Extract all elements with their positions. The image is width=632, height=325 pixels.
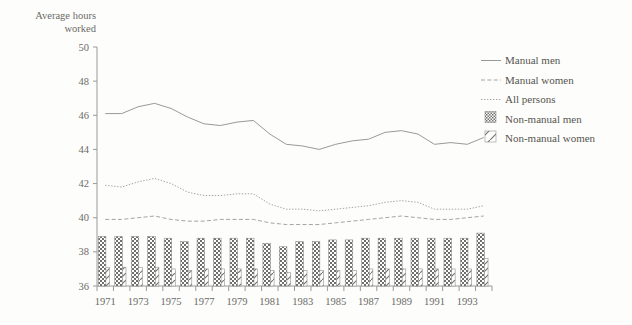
y-axis-label-line2: worked — [65, 23, 97, 34]
legend-swatch-crosshatch — [485, 112, 496, 123]
x-axis-tick-label: 1991 — [424, 296, 445, 307]
line-manual-women — [105, 216, 484, 225]
x-axis-tick-label: 1973 — [128, 296, 149, 307]
x-axis-tick-label: 1977 — [193, 296, 214, 307]
bar-non-manual-men — [460, 238, 468, 286]
bar-non-manual-men — [263, 243, 271, 286]
y-axis: 3638404244464850 — [79, 42, 98, 292]
bar-non-manual-men — [345, 240, 353, 286]
legend-item-label: Manual men — [505, 54, 561, 66]
line-series-group — [105, 103, 484, 224]
bar-non-manual-men — [378, 238, 386, 286]
chart-figure: Average hours worked 3638404244464850 19… — [0, 0, 632, 325]
line-manual-men — [105, 103, 484, 149]
legend-item-label: All persons — [505, 93, 555, 105]
bar-non-manual-men — [395, 238, 403, 286]
y-axis-tick-label: 50 — [79, 42, 90, 53]
x-axis-tick-label: 1985 — [325, 296, 346, 307]
x-axis-tick-label: 1979 — [226, 296, 247, 307]
y-axis-tick-label: 42 — [79, 178, 90, 189]
legend-swatch-diagonal — [485, 131, 496, 142]
bar-non-manual-men — [197, 238, 205, 286]
bar-series-group — [98, 233, 488, 286]
y-axis-tick-label: 44 — [79, 144, 90, 155]
bar-non-manual-men — [181, 242, 189, 286]
y-axis-label-line1: Average hours — [35, 10, 96, 21]
bar-non-manual-men — [312, 242, 320, 286]
x-axis-tick-label: 1983 — [292, 296, 313, 307]
bar-non-manual-men — [98, 236, 106, 286]
bar-non-manual-men — [131, 236, 139, 286]
bar-non-manual-men — [230, 238, 238, 286]
bar-non-manual-men — [115, 236, 123, 286]
bar-non-manual-men — [444, 238, 452, 286]
legend-item-label: Non-manual men — [505, 113, 582, 125]
x-axis-tick-label: 1981 — [259, 296, 280, 307]
legend-item-label: Manual women — [505, 74, 574, 86]
legend-item-label: Non-manual women — [505, 132, 596, 144]
bar-non-manual-men — [411, 238, 419, 286]
y-axis-tick-label: 36 — [79, 281, 90, 292]
x-axis-tick-label: 1975 — [161, 296, 182, 307]
x-axis-tick-label: 1989 — [391, 296, 412, 307]
bar-non-manual-men — [246, 238, 254, 286]
x-axis-tick-label: 1987 — [358, 296, 379, 307]
bar-non-manual-men — [477, 233, 485, 286]
bar-non-manual-men — [427, 238, 435, 286]
bar-non-manual-men — [329, 240, 337, 286]
y-axis-tick-label: 46 — [79, 110, 90, 121]
x-axis-tick-label: 1993 — [457, 296, 478, 307]
chart-legend: Manual menManual womenAll personsNon-man… — [481, 54, 596, 144]
bar-non-manual-men — [148, 236, 156, 286]
bar-non-manual-men — [214, 238, 222, 286]
line-all-persons — [105, 178, 484, 210]
hours-worked-chart: Average hours worked 3638404244464850 19… — [0, 0, 632, 325]
y-axis-tick-label: 48 — [79, 76, 90, 87]
bar-non-manual-men — [296, 242, 304, 286]
y-axis-tick-label: 38 — [79, 246, 90, 257]
bar-non-manual-men — [164, 238, 172, 286]
x-axis-tick-label: 1971 — [95, 296, 116, 307]
x-axis: 1971197319751977197919811983198519871989… — [95, 286, 492, 307]
y-axis-label: Average hours worked — [35, 10, 96, 34]
y-axis-tick-label: 40 — [79, 212, 90, 223]
bar-non-manual-men — [279, 247, 287, 286]
bar-non-manual-men — [362, 238, 370, 286]
